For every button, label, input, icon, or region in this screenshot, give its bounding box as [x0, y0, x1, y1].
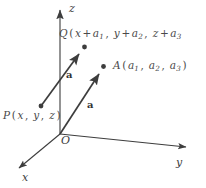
x-axis-line [19, 134, 60, 168]
point-p-dot [39, 104, 44, 109]
vector-translation-diagram: Q(x+a1, y+a2, z+a3 A(a1, a2, a3) P(x, y,… [0, 0, 206, 188]
point-q-dot [82, 45, 87, 50]
origin-label: O [61, 135, 70, 146]
point-a-dot [101, 64, 106, 69]
point-q-label: Q(x+a1, y+a2, z+a3 [59, 28, 181, 40]
z-axis-label: z [69, 3, 75, 14]
vector-pq-label: a [66, 70, 72, 80]
y-axis-line [60, 134, 186, 147]
x-axis-label: x [22, 172, 28, 183]
point-a-label: A(a1, a2, a3) [113, 60, 188, 72]
vector-oa-label: a [87, 100, 93, 110]
y-axis-label: y [176, 157, 182, 168]
point-p-label: P(x, y, z) [3, 110, 62, 121]
